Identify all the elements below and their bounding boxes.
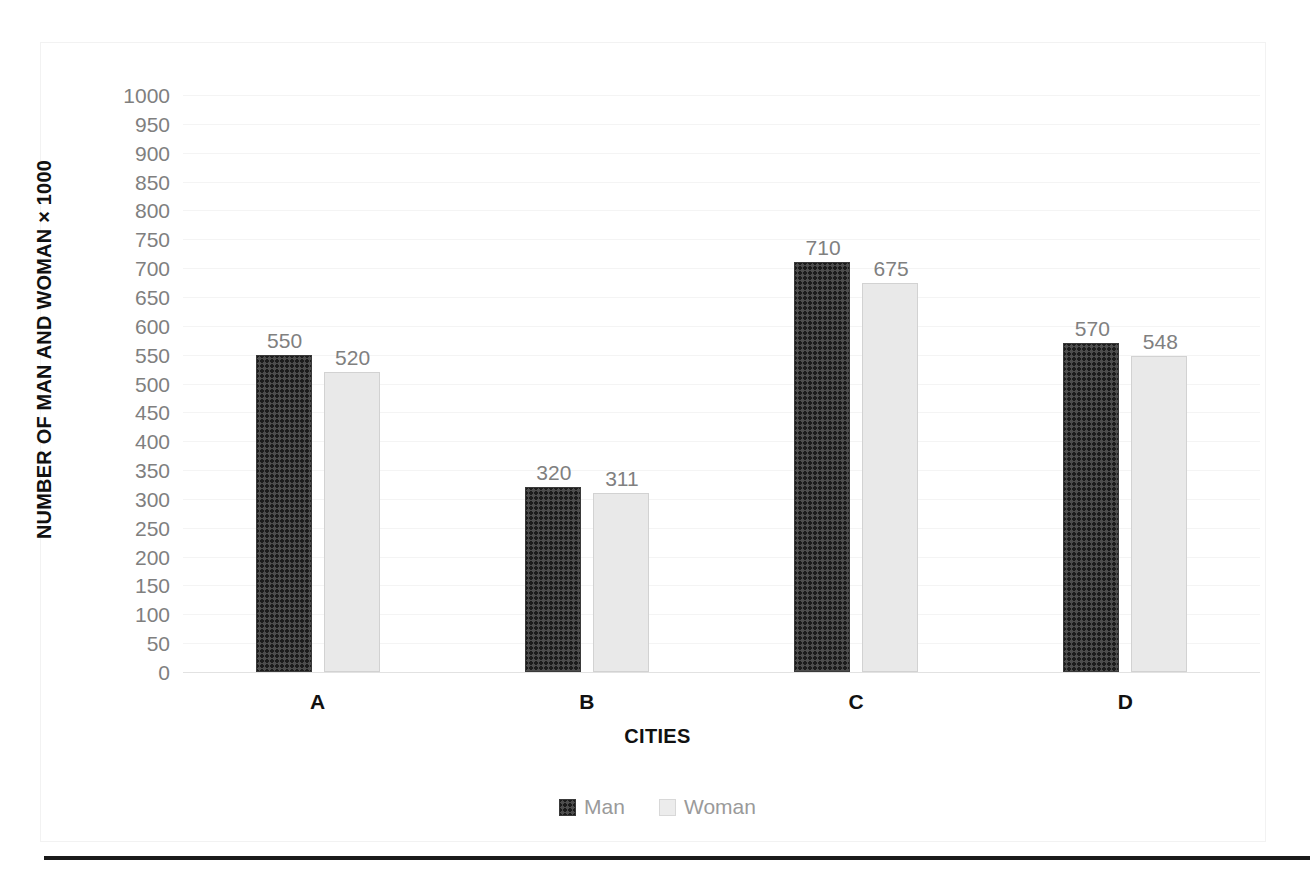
bar-value-label: 675 xyxy=(856,258,926,279)
bar-man-c[interactable]: 710 xyxy=(794,262,850,672)
bar-woman-b[interactable]: 311 xyxy=(593,493,649,672)
legend-swatch-man-icon xyxy=(559,799,576,816)
bar-man-a[interactable]: 550 xyxy=(256,355,312,672)
y-axis-tick-label: 150 xyxy=(110,575,170,596)
bar-man-b[interactable]: 320 xyxy=(525,487,581,672)
legend-label-man: Man xyxy=(584,795,625,819)
bar-value-label: 520 xyxy=(318,347,388,368)
y-axis-tick-label: 700 xyxy=(110,258,170,279)
y-axis-tick-label: 300 xyxy=(110,488,170,509)
y-axis-tick-label: 350 xyxy=(110,460,170,481)
legend-item-woman[interactable]: Woman xyxy=(659,795,756,819)
y-axis-tick-label: 0 xyxy=(110,662,170,683)
y-axis-tick-label: 100 xyxy=(110,604,170,625)
bottom-rule-divider xyxy=(44,856,1310,860)
y-axis-tick-label: 400 xyxy=(110,431,170,452)
bar-value-label: 311 xyxy=(587,468,657,489)
y-axis-title: NUMBER OF MAN AND WOMAN × 1000 xyxy=(33,100,56,600)
y-axis-tick-label: 200 xyxy=(110,546,170,567)
chart-legend: Man Woman xyxy=(0,795,1315,819)
legend-swatch-woman-icon xyxy=(659,799,676,816)
y-axis-tick-label: 450 xyxy=(110,402,170,423)
x-axis-tick-label-d: D xyxy=(1055,690,1195,714)
x-axis-title: CITIES xyxy=(0,725,1315,748)
bar-man-d[interactable]: 570 xyxy=(1063,343,1119,672)
y-axis-tick-label: 900 xyxy=(110,142,170,163)
bar-value-label: 550 xyxy=(250,330,320,351)
bar-group-a: 550520 xyxy=(256,95,380,672)
y-axis-tick-label: 600 xyxy=(110,315,170,336)
bar-group-d: 570548 xyxy=(1063,95,1187,672)
y-axis-tick-label: 500 xyxy=(110,373,170,394)
legend-label-woman: Woman xyxy=(684,795,756,819)
gridline xyxy=(183,672,1260,673)
bar-value-label: 320 xyxy=(519,462,589,483)
bar-value-label: 548 xyxy=(1125,331,1195,352)
bar-group-c: 710675 xyxy=(794,95,918,672)
y-axis-tick-label: 950 xyxy=(110,113,170,134)
bar-woman-a[interactable]: 520 xyxy=(324,372,380,672)
plot-area: 550520320311710675570548 xyxy=(183,95,1260,672)
y-axis-tick-label: 250 xyxy=(110,517,170,538)
y-axis-tick-label: 800 xyxy=(110,200,170,221)
bar-value-label: 710 xyxy=(788,237,858,258)
y-axis-tick-label: 650 xyxy=(110,286,170,307)
y-axis-tick-label: 750 xyxy=(110,229,170,250)
y-axis-tick-labels: 1000950900850800750700650600550500450400… xyxy=(108,95,170,672)
bar-woman-c[interactable]: 675 xyxy=(862,283,918,672)
x-axis-tick-label-c: C xyxy=(786,690,926,714)
bar-woman-d[interactable]: 548 xyxy=(1131,356,1187,672)
bar-group-b: 320311 xyxy=(525,95,649,672)
bar-value-label: 570 xyxy=(1057,318,1127,339)
legend-item-man[interactable]: Man xyxy=(559,795,625,819)
y-axis-tick-label: 1000 xyxy=(110,85,170,106)
y-axis-tick-label: 850 xyxy=(110,171,170,192)
y-axis-tick-label: 550 xyxy=(110,344,170,365)
x-axis-tick-label-a: A xyxy=(248,690,388,714)
x-axis-tick-label-b: B xyxy=(517,690,657,714)
y-axis-tick-label: 50 xyxy=(110,633,170,654)
